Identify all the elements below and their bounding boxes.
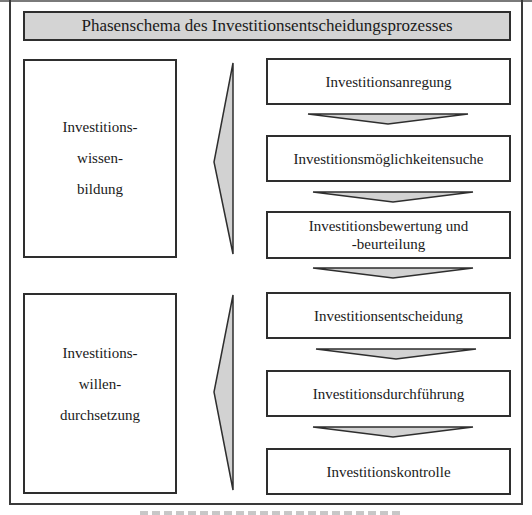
- phase-label: Investitionsmöglichkeitensuche: [294, 150, 484, 168]
- diagram-title: Phasenschema des Investitionsentscheidun…: [81, 16, 452, 36]
- group-label-line: durchsetzung: [60, 400, 140, 431]
- diagram-title-bar: Phasenschema des Investitionsentscheidun…: [23, 11, 511, 41]
- phase-box-investitionsbewertung: Investitionsbewertung und -beurteilung: [266, 211, 511, 259]
- group-box-investitionswillendurchsetzung: Investitions- willen- durchsetzung: [23, 293, 177, 494]
- group-label-line: wissen-: [77, 143, 123, 174]
- group-label-line: willen-: [79, 369, 122, 400]
- phase-label-line: Investitionsbewertung und: [309, 217, 469, 235]
- group-box-investitionswissenbildung: Investitions- wissen- bildung: [23, 59, 177, 258]
- group-label-line: bildung: [77, 174, 123, 205]
- phase-box-investitionsentscheidung: Investitionsentscheidung: [266, 292, 511, 339]
- phase-box-investitionsanregung: Investitionsanregung: [266, 58, 511, 105]
- phase-box-investitionsdurchfuehrung: Investitionsdurchführung: [266, 370, 511, 417]
- caption-text-cropped: [140, 511, 400, 515]
- phase-label: Investitionskontrolle: [326, 463, 450, 481]
- phase-box-investitionsmoeglichkeitensuche: Investitionsmöglichkeitensuche: [266, 135, 511, 182]
- phase-label: Investitionsanregung: [326, 73, 452, 91]
- phase-label-line: -beurteilung: [352, 235, 425, 253]
- group-label-line: Investitions-: [63, 338, 138, 369]
- phase-label: Investitionsdurchführung: [313, 385, 465, 403]
- phase-box-investitionskontrolle: Investitionskontrolle: [266, 448, 511, 495]
- group-label-line: Investitions-: [63, 112, 138, 143]
- phase-label: Investitionsentscheidung: [314, 307, 463, 325]
- figure-caption-cropped: [0, 508, 532, 515]
